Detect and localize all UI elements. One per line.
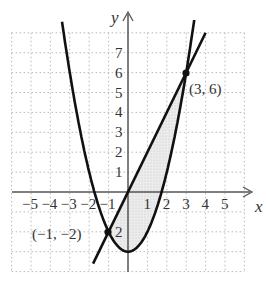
x-axis-label: x — [254, 197, 263, 216]
y-tick-label: 4 — [115, 104, 123, 120]
x-tick-label: 5 — [221, 196, 229, 212]
y-tick-label: 1 — [115, 164, 123, 180]
x-tick-label: 4 — [202, 196, 210, 212]
x-tick-label: 2 — [163, 196, 171, 212]
y-tick-label: 2 — [115, 144, 123, 160]
y-tick-label: 5 — [115, 85, 123, 101]
x-tick-label: −2 — [80, 196, 96, 212]
point-label-neg1-neg2: (−1, −2) — [32, 226, 81, 243]
x-tick-label: −1 — [100, 196, 116, 212]
x-tick-label: −3 — [61, 196, 77, 212]
intersection-point-3-6 — [182, 69, 189, 76]
y-tick-label: 6 — [115, 65, 123, 81]
y-axis-label: y — [109, 8, 119, 27]
x-tick-label: 3 — [182, 196, 190, 212]
graph: −5−4−3−2−11234576543212 x y (3, 6) (−1, … — [0, 0, 266, 282]
intersection-point-neg1-neg2 — [104, 228, 111, 235]
y-tick-label: 3 — [115, 124, 123, 140]
point-label-3-6: (3, 6) — [189, 81, 222, 98]
y-tick-label: 2 — [115, 224, 123, 240]
x-tick-label: −5 — [22, 196, 38, 212]
y-tick-label: 7 — [115, 45, 123, 61]
x-tick-label: −4 — [41, 196, 57, 212]
x-tick-label: 1 — [143, 196, 151, 212]
